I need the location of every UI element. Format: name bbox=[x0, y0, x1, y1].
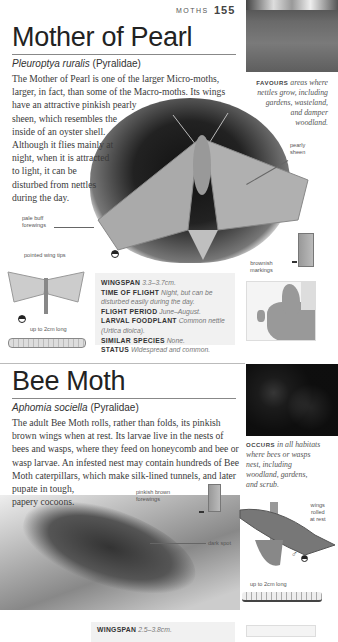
leader-line bbox=[150, 543, 206, 544]
night-flying-icon bbox=[111, 250, 119, 258]
fact-status: STATUS Widespread and common. bbox=[101, 345, 229, 355]
fact-time-of-flight: TIME OF FLIGHT Night, but can be disturb… bbox=[101, 288, 229, 307]
annotation-dark-spot: dark spot bbox=[208, 540, 231, 547]
night-flying-icon bbox=[18, 315, 26, 323]
fact-flight-period: FLIGHT PERIOD June–August. bbox=[101, 307, 229, 317]
fact-wingspan: WINGSPAN 2.5–3.8cm. bbox=[97, 625, 229, 635]
title-rule bbox=[12, 54, 236, 55]
annotation-pointed-tips: pointed wing tips bbox=[24, 252, 66, 259]
fact-similar-species: SIMILAR SPECIES None. bbox=[101, 336, 229, 346]
distribution-map bbox=[246, 281, 316, 341]
habitat-key: OCCURS bbox=[246, 442, 275, 448]
fact-box: WINGSPAN 3.3–3.7cm. TIME OF FLIGHT Night… bbox=[95, 273, 235, 345]
annotation-larva-size: up to 2cm long bbox=[250, 581, 287, 588]
annotation-pale-buff: pale buff forewings bbox=[22, 215, 46, 229]
moth-scale-icon bbox=[292, 261, 297, 263]
scientific-name: Aphomia sociella (Pyralidae) bbox=[12, 402, 139, 413]
page-number: 155 bbox=[214, 4, 235, 16]
fact-wingspan: WINGSPAN 3.3–3.7cm. bbox=[101, 278, 229, 288]
habitat-caption-2: OCCURS in all habitats where bees or was… bbox=[246, 440, 336, 490]
moth-scale-icon bbox=[199, 511, 204, 513]
title-rule bbox=[12, 398, 236, 399]
night-flying-icon bbox=[301, 555, 308, 562]
book-size-icon bbox=[208, 484, 221, 512]
fact-box: WINGSPAN 2.5–3.8cm. bbox=[91, 622, 235, 642]
book-size-icon bbox=[298, 233, 314, 267]
fact-larval-foodplant: LARVAL FOODPLANT Common nettle (Urtica d… bbox=[101, 316, 229, 335]
annotation-pearly-sheen: pearly sheen bbox=[290, 142, 305, 156]
habitat-photo-scrub bbox=[246, 364, 338, 436]
habitat-key: FAVOURS bbox=[256, 80, 288, 86]
running-head-section: MOTHS bbox=[176, 7, 209, 14]
species-title: Mother of Pearl bbox=[12, 22, 192, 53]
section-divider bbox=[0, 363, 245, 364]
male-symbol-icon: ♂ bbox=[291, 551, 298, 558]
caterpillar-illustration bbox=[242, 592, 322, 602]
habitat-photo-nettles bbox=[246, 0, 338, 72]
annotation-wings-rolled: wings rolled at rest bbox=[310, 502, 326, 523]
leader-line bbox=[54, 227, 94, 228]
annotation-larva-size: up to 2cm long bbox=[30, 326, 67, 333]
caterpillar-illustration bbox=[8, 338, 86, 348]
distribution-map bbox=[246, 625, 316, 637]
annotation-brownish: brownish markings bbox=[250, 260, 273, 274]
annotation-pinkish-brown: pinkish brown forewings bbox=[136, 489, 170, 503]
species-description: The Mother of Pearl is one of the larger… bbox=[12, 72, 238, 204]
scientific-name: Pleuroptya ruralis (Pyralidae) bbox=[12, 58, 141, 69]
moth-small-illustration bbox=[4, 262, 88, 322]
species-title: Bee Moth bbox=[12, 366, 125, 397]
